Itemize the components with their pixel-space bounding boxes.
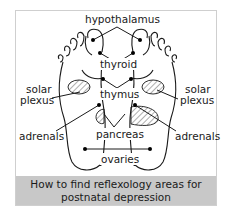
label-thymus: thymus [99,88,140,100]
pancreas-left-area [96,109,104,124]
label-ovaries: ovaries [100,153,140,165]
label-adrenals-right: adrenals [175,130,220,142]
label-pancreas: pancreas [95,128,145,140]
label-solar-plexus-left-2: plexus [20,94,54,106]
label-solar-plexus-right-2: plexus [180,94,214,106]
pancreas-right-area [131,106,158,125]
caption-line-1: How to find reflexology areas for [30,178,201,191]
label-hypothalamus: hypothalamus [85,13,160,25]
caption-line-2: postnatal depression [61,191,171,204]
label-thyroid: thyroid [99,58,138,70]
label-adrenals-left: adrenals [19,130,64,142]
caption-band: How to find reflexology areas for postna… [16,176,216,205]
